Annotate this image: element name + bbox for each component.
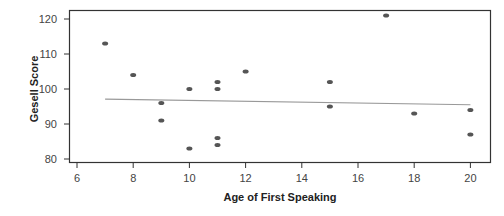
- x-tick-label: 12: [239, 172, 251, 184]
- data-point: [158, 119, 164, 123]
- x-axis: 68101214161820: [74, 163, 477, 185]
- data-point: [102, 42, 108, 46]
- y-tick-label: 110: [39, 48, 57, 60]
- data-point: [186, 147, 192, 151]
- data-point: [158, 101, 164, 105]
- y-tick-label: 100: [39, 83, 57, 95]
- y-axis-title: Gesell Score: [28, 56, 40, 123]
- y-tick-label: 90: [45, 118, 57, 130]
- data-point: [215, 136, 221, 140]
- data-point: [215, 87, 221, 91]
- plot-area: [70, 11, 491, 163]
- y-tick-label: 80: [45, 153, 57, 165]
- scatter-chart: 8090100110120 68101214161820 Age of Firs…: [0, 0, 504, 216]
- data-point: [130, 73, 136, 77]
- x-tick-label: 10: [183, 172, 195, 184]
- data-point: [467, 108, 473, 112]
- x-tick-label: 18: [408, 172, 420, 184]
- data-point: [411, 112, 417, 116]
- data-point: [327, 80, 333, 84]
- data-point: [243, 70, 249, 74]
- y-tick-label: 120: [39, 13, 57, 25]
- x-tick-label: 6: [74, 172, 80, 184]
- x-tick-label: 16: [352, 172, 364, 184]
- data-point: [467, 133, 473, 137]
- y-axis: 8090100110120: [39, 13, 70, 165]
- x-tick-label: 8: [130, 172, 136, 184]
- data-point: [215, 143, 221, 147]
- data-point: [215, 80, 221, 84]
- data-point: [383, 14, 389, 18]
- x-tick-label: 20: [464, 172, 476, 184]
- data-point: [327, 105, 333, 109]
- x-axis-title: Age of First Speaking: [223, 191, 336, 203]
- x-tick-label: 14: [296, 172, 308, 184]
- data-point: [186, 87, 192, 91]
